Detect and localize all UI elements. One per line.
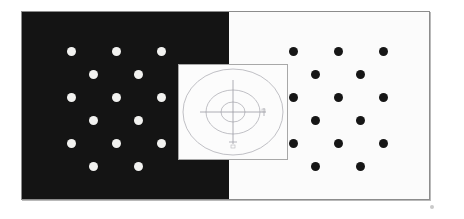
dot-dark	[379, 93, 388, 102]
dot-light	[157, 139, 166, 148]
dot-light	[89, 70, 98, 79]
corner-speck	[430, 205, 434, 209]
dot-light	[89, 162, 98, 171]
dot-light	[157, 93, 166, 102]
dot-light	[134, 70, 143, 79]
dot-dark	[311, 70, 320, 79]
figure-title: Simultaneous contrast dot-grid plate	[0, 0, 1, 1]
dot-dark	[334, 139, 343, 148]
dot-dark	[379, 139, 388, 148]
target-inset	[178, 64, 288, 160]
dot-light	[67, 47, 76, 56]
dot-dark	[334, 93, 343, 102]
dot-dark	[289, 93, 298, 102]
scanned-plate	[21, 11, 430, 200]
dot-light	[89, 116, 98, 125]
dot-light	[112, 93, 121, 102]
dot-light	[134, 116, 143, 125]
dot-dark	[311, 162, 320, 171]
dot-dark	[356, 70, 365, 79]
dot-dark	[356, 116, 365, 125]
dot-dark	[311, 116, 320, 125]
dot-dark	[334, 47, 343, 56]
inset-frame	[178, 64, 288, 160]
figure-canvas: Simultaneous contrast dot-grid plate Sca…	[0, 0, 464, 219]
dot-light	[112, 139, 121, 148]
figure-description: Scanned plate split into a black left ha…	[0, 0, 1, 1]
dot-light	[112, 47, 121, 56]
dot-light	[157, 47, 166, 56]
dot-light	[134, 162, 143, 171]
dot-dark	[289, 139, 298, 148]
dot-light	[67, 93, 76, 102]
dot-dark	[379, 47, 388, 56]
dot-light	[67, 139, 76, 148]
dot-dark	[356, 162, 365, 171]
dot-dark	[289, 47, 298, 56]
